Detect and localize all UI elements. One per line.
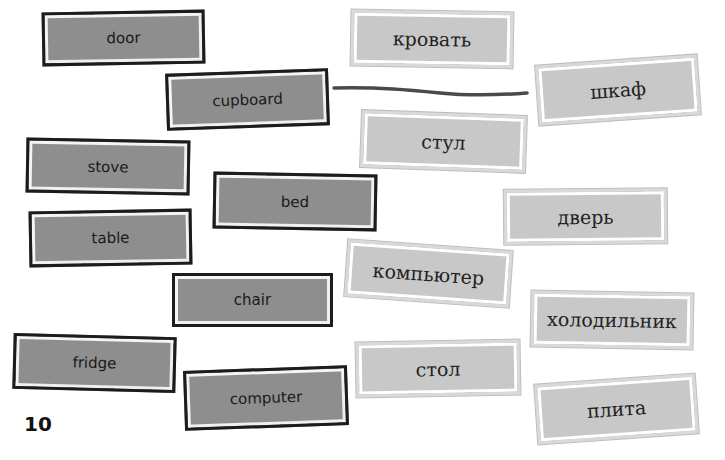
page-number: 10 bbox=[24, 412, 52, 436]
word-card-table[interactable]: table bbox=[29, 209, 193, 268]
word-card-computer[interactable]: computer bbox=[183, 365, 349, 431]
word-label: stove bbox=[87, 157, 128, 176]
word-card-bed[interactable]: bed bbox=[213, 172, 378, 232]
word-label: стол bbox=[415, 357, 460, 380]
word-label: плита bbox=[586, 396, 647, 422]
word-label: chair bbox=[234, 291, 271, 309]
word-card-kompyuter[interactable]: компьютер bbox=[344, 239, 513, 307]
word-card-dver[interactable]: дверь bbox=[504, 188, 667, 244]
word-label: компьютер bbox=[372, 259, 485, 289]
word-label: cupboard bbox=[212, 89, 283, 109]
word-card-shkaf[interactable]: шкаф bbox=[535, 54, 701, 125]
word-label: table bbox=[91, 229, 129, 248]
word-card-cupboard[interactable]: cupboard bbox=[165, 68, 330, 131]
word-card-fridge[interactable]: fridge bbox=[12, 333, 176, 393]
word-label: computer bbox=[230, 388, 303, 409]
word-card-stul[interactable]: стул bbox=[360, 110, 527, 173]
word-card-door[interactable]: door bbox=[42, 10, 206, 67]
word-card-krovat[interactable]: кровать bbox=[351, 10, 514, 69]
word-label: bed bbox=[281, 192, 310, 210]
word-label: стул bbox=[421, 130, 466, 154]
word-label: шкаф bbox=[589, 77, 646, 103]
word-card-chair[interactable]: chair bbox=[172, 273, 333, 327]
word-label: door bbox=[106, 29, 140, 48]
word-card-stove[interactable]: stove bbox=[26, 138, 191, 196]
word-card-kholodilnik[interactable]: холодильник bbox=[531, 291, 694, 350]
word-card-stol[interactable]: стол bbox=[356, 340, 521, 398]
word-label: кровать bbox=[393, 27, 472, 50]
word-card-plita[interactable]: плита bbox=[534, 373, 699, 444]
word-label: дверь bbox=[557, 205, 613, 227]
word-label: холодильник bbox=[547, 308, 677, 332]
word-label: fridge bbox=[72, 353, 116, 372]
